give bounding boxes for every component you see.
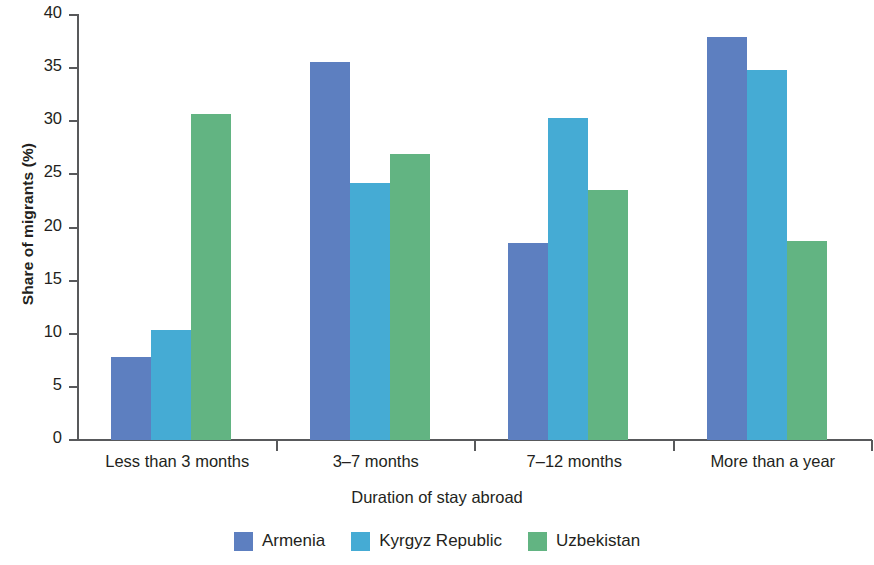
y-axis-tick: 5 bbox=[69, 386, 78, 388]
bar-kyrgyz-republic bbox=[350, 183, 390, 440]
y-axis-tick-label: 15 bbox=[44, 269, 62, 288]
bar-armenia bbox=[111, 357, 151, 440]
bar-armenia bbox=[707, 37, 747, 440]
x-axis-category-label: 3–7 months bbox=[277, 452, 476, 471]
bar-uzbekistan bbox=[787, 241, 827, 440]
bar-uzbekistan bbox=[191, 114, 231, 440]
x-axis-tick bbox=[673, 440, 675, 451]
plot-area: 0510152025303540 bbox=[78, 15, 872, 440]
y-axis-tick-label: 0 bbox=[53, 428, 62, 447]
y-axis-tick-label: 40 bbox=[44, 3, 62, 22]
legend-item-armenia: Armenia bbox=[234, 531, 325, 551]
y-axis-tick: 30 bbox=[69, 120, 78, 122]
bar-group bbox=[475, 15, 674, 440]
legend-label: Uzbekistan bbox=[556, 531, 640, 551]
bar-chart: Share of migrants (%) 0510152025303540 D… bbox=[0, 0, 874, 565]
y-axis-tick-label: 20 bbox=[44, 216, 62, 235]
y-axis-tick: 40 bbox=[69, 14, 78, 16]
legend-item-kyrgyz-republic: Kyrgyz Republic bbox=[351, 531, 502, 551]
x-axis-tick bbox=[871, 440, 873, 451]
y-axis-tick-label: 5 bbox=[53, 375, 62, 394]
x-axis-category-label: 7–12 months bbox=[475, 452, 674, 471]
bar-group bbox=[78, 15, 277, 440]
x-axis-category-label: Less than 3 months bbox=[78, 452, 277, 471]
y-axis-tick-label: 30 bbox=[44, 109, 62, 128]
y-axis-tick: 35 bbox=[69, 67, 78, 69]
legend-label: Armenia bbox=[262, 531, 325, 551]
x-axis-tick bbox=[276, 440, 278, 451]
bar-uzbekistan bbox=[588, 190, 628, 440]
legend-item-uzbekistan: Uzbekistan bbox=[528, 531, 640, 551]
y-axis-tick: 25 bbox=[69, 173, 78, 175]
x-axis-tick bbox=[474, 440, 476, 451]
y-axis-tick-label: 35 bbox=[44, 56, 62, 75]
bar-kyrgyz-republic bbox=[548, 118, 588, 440]
legend-swatch-icon bbox=[528, 532, 547, 551]
legend-swatch-icon bbox=[351, 532, 370, 551]
bar-armenia bbox=[310, 62, 350, 440]
y-axis-tick-label: 10 bbox=[44, 322, 62, 341]
y-axis-tick-label: 25 bbox=[44, 162, 62, 181]
y-axis-title: Share of migrants (%) bbox=[19, 104, 37, 344]
x-axis-title: Duration of stay abroad bbox=[0, 488, 874, 507]
y-axis-tick: 20 bbox=[69, 227, 78, 229]
bar-kyrgyz-republic bbox=[151, 330, 191, 441]
y-axis-tick: 15 bbox=[69, 280, 78, 282]
bar-armenia bbox=[508, 243, 548, 440]
y-axis-tick: 0 bbox=[69, 439, 78, 441]
y-axis-tick: 10 bbox=[69, 333, 78, 335]
bar-kyrgyz-republic bbox=[747, 70, 787, 440]
legend-label: Kyrgyz Republic bbox=[379, 531, 502, 551]
chart-legend: ArmeniaKyrgyz RepublicUzbekistan bbox=[0, 531, 874, 551]
x-axis-category-label: More than a year bbox=[674, 452, 873, 471]
bar-group bbox=[674, 15, 873, 440]
bar-uzbekistan bbox=[390, 154, 430, 440]
legend-swatch-icon bbox=[234, 532, 253, 551]
bar-group bbox=[277, 15, 476, 440]
